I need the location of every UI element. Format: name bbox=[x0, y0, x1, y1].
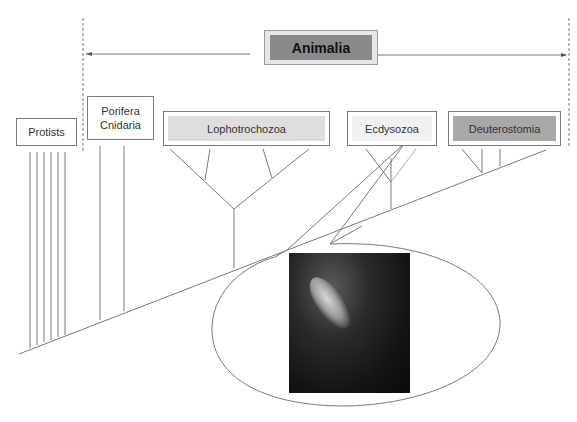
lophotrochozoa-box: Lophotrochozoa bbox=[163, 111, 330, 146]
ecdysozoa-label: Ecdysozoa bbox=[365, 122, 419, 136]
porifera-cnidaria-label: Porifera Cnidaria bbox=[100, 104, 141, 132]
shrimp-figure bbox=[302, 271, 358, 335]
main-trunk bbox=[19, 150, 546, 354]
cnidaria-label: Cnidaria bbox=[100, 119, 141, 131]
protists-label: Protists bbox=[28, 125, 65, 139]
ecdysozoa-box: Ecdysozoa bbox=[347, 111, 437, 146]
phylogeny-diagram: Animalia Protists Porifera Cnidaria Loph… bbox=[0, 0, 577, 422]
animalia-label: Animalia bbox=[292, 41, 350, 55]
animalia-title-box: Animalia bbox=[264, 30, 378, 65]
shrimp-photo bbox=[289, 253, 410, 393]
deuterostomia-label: Deuterostomia bbox=[469, 122, 541, 136]
porifera-label: Porifera bbox=[101, 105, 140, 117]
lophotrochozoa-label: Lophotrochozoa bbox=[207, 122, 286, 136]
deuterostomia-box: Deuterostomia bbox=[448, 111, 561, 146]
protists-box: Protists bbox=[16, 118, 77, 146]
porifera-cnidaria-box: Porifera Cnidaria bbox=[87, 96, 154, 140]
